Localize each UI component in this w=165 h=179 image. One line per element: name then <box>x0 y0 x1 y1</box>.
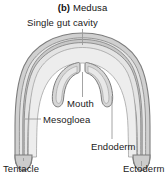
label-tentacle: Tentacle <box>3 163 39 174</box>
label-single-gut-cavity: Single gut cavity <box>27 17 98 28</box>
label-mouth: Mouth <box>67 98 94 109</box>
label-ectoderm: Ectoderm <box>123 163 164 174</box>
label-endoderm: Endoderm <box>91 141 136 152</box>
medusa-figure: (b) Medusa <box>0 0 165 179</box>
label-mesogloea: Mesogloea <box>43 114 90 125</box>
